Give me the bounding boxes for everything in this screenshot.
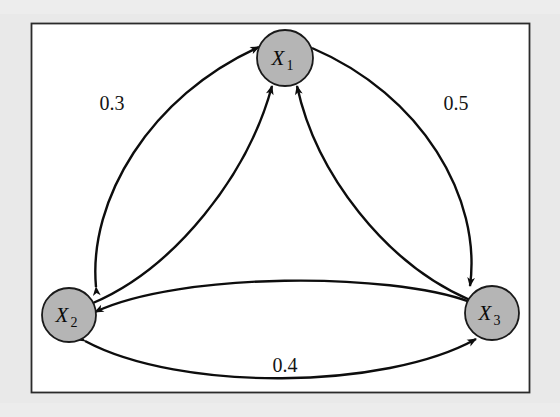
- texture-band-top: [0, 0, 560, 14]
- graph-canvas: X 1 X 2 X 3 0.3 0.5 0.4: [0, 0, 560, 417]
- node-x3[interactable]: X 3: [465, 286, 519, 340]
- node-x2-label: X: [55, 303, 70, 327]
- node-x2[interactable]: X 2: [42, 288, 96, 342]
- node-x3-subscript: 3: [494, 313, 501, 328]
- figure-container: X 1 X 2 X 3 0.3 0.5 0.4: [0, 0, 560, 417]
- texture-band-bottom: [0, 403, 560, 417]
- edge-weight-x1-x2: 0.3: [100, 92, 125, 114]
- node-x2-circle[interactable]: [42, 288, 96, 342]
- edge-weight-x1-x3: 0.5: [444, 92, 469, 114]
- node-x3-circle[interactable]: [465, 286, 519, 340]
- edge-weight-x2-x3: 0.4: [273, 354, 298, 376]
- node-x2-subscript: 2: [71, 315, 78, 330]
- node-x1[interactable]: X 1: [257, 30, 313, 86]
- node-x1-circle[interactable]: [257, 30, 313, 86]
- node-x3-label: X: [478, 301, 493, 325]
- node-x1-subscript: 1: [287, 58, 294, 73]
- node-x1-label: X: [271, 46, 286, 70]
